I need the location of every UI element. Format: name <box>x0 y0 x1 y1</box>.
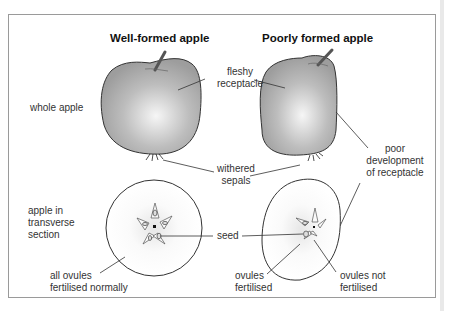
label-poor-development: poor development of receptacle <box>355 143 435 179</box>
title-poorly-formed: Poorly formed apple <box>262 32 373 44</box>
sepals-icon <box>146 154 163 161</box>
well-formed-whole-apple <box>101 52 201 161</box>
well-formed-section <box>100 180 202 276</box>
label-ovules-fertilised: ovules fertilised <box>235 270 272 294</box>
label-all-ovules-fertilised: all ovules fertilised normally <box>50 270 128 294</box>
label-whole-apple: whole apple <box>30 102 83 114</box>
label-withered-sepals: withered sepals <box>210 163 262 187</box>
poorly-formed-section <box>262 179 340 280</box>
title-well-formed: Well-formed apple <box>110 32 209 44</box>
label-ovules-not-fertilised: ovules not fertilised <box>340 270 386 294</box>
poorly-formed-whole-apple <box>260 50 337 161</box>
label-seed: seed <box>217 230 239 242</box>
label-transverse-section: apple in transverse section <box>28 205 75 241</box>
label-fleshy-receptacle: fleshy receptacle <box>210 66 270 90</box>
